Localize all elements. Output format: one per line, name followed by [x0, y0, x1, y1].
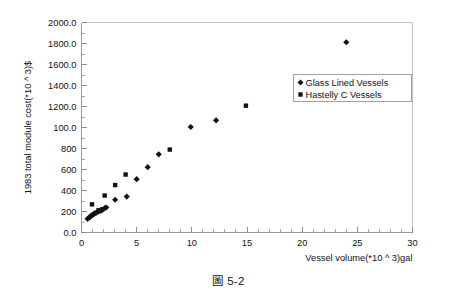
x-axis-tick-label: 20 [297, 238, 307, 248]
plot-frame [82, 23, 413, 233]
figure-caption: 圖 5-2 [0, 272, 457, 288]
x-axis-tick-label: 30 [407, 238, 417, 248]
y-axis-tick-label: 400 [61, 186, 77, 196]
legend-label: Glass Lined Vessels [306, 78, 389, 88]
y-axis-tick-label: 1200.0 [48, 102, 76, 112]
data-point [134, 176, 140, 182]
data-point [244, 103, 248, 107]
data-point [100, 207, 104, 211]
x-axis-tick-label: 0 [79, 238, 84, 248]
series-1-points [84, 39, 349, 222]
legend-marker-square [298, 92, 302, 96]
series-2-points [90, 103, 248, 212]
data-point [168, 147, 172, 151]
data-point [112, 197, 118, 203]
figure-caption-number: 5-2 [227, 275, 245, 287]
x-axis-tick-label: 10 [187, 238, 197, 248]
y-axis-tick-label: 600 [61, 165, 77, 175]
y-axis-tick-label: 1600.0 [48, 60, 76, 70]
figure-caption-symbol: 圖 [212, 274, 223, 288]
y-axis-title: 1983 total module cost(*10 ^ 3)$ [23, 60, 33, 194]
data-point [188, 124, 194, 130]
data-point [156, 151, 162, 157]
data-point [213, 117, 219, 123]
y-axis-tick-label: 1800.0 [48, 39, 76, 49]
y-axis-tick-label: 1400.0 [48, 81, 76, 91]
figure-container: 0510152025300.0200400600800100.01200.014… [0, 0, 457, 300]
y-axis-tick-label: 800 [61, 144, 77, 154]
y-axis-tick-label: 0.0 [64, 228, 77, 238]
x-axis-title: Vessel volume(*10 ^ 3)gal [305, 253, 412, 263]
data-point [113, 183, 117, 187]
data-point [343, 39, 349, 45]
y-axis-tick-label: 2000.0 [48, 18, 76, 28]
x-axis-tick-label: 25 [352, 238, 362, 248]
data-point-layer [84, 39, 349, 222]
data-point [102, 193, 106, 197]
data-point [123, 172, 127, 176]
legend-label: Hastelly C Vessels [306, 90, 382, 100]
plot-canvas: 0510152025300.0200400600800100.01200.014… [0, 0, 457, 270]
data-point [124, 193, 130, 199]
scatter-chart: 0510152025300.0200400600800100.01200.014… [0, 0, 457, 270]
y-axis-tick-label: 200 [61, 207, 77, 217]
data-point [96, 208, 100, 212]
y-axis-tick-label: 100.0 [53, 123, 76, 133]
data-point [90, 202, 94, 206]
chart-legend: Glass Lined VesselsHastelly C Vessels [294, 75, 412, 102]
x-axis-tick-label: 15 [242, 238, 252, 248]
data-point [145, 164, 151, 170]
x-axis-tick-label: 5 [134, 238, 139, 248]
